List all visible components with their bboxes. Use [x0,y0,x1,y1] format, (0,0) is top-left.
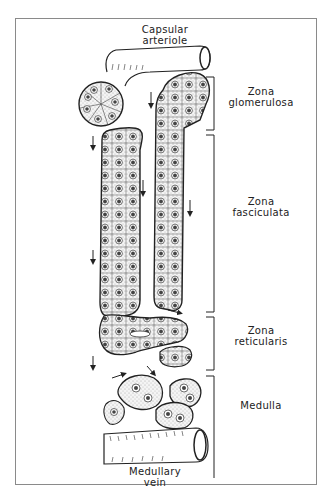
label-zona-fasciculata: Zona fasciculata [215,196,307,218]
label-line: Capsular [130,24,200,35]
label-line: arteriole [130,35,200,46]
reticularis-cords [100,315,192,367]
label-line: Medulla [215,400,307,411]
medullary-vein-vessel [104,428,208,464]
label-line: Zona [215,325,307,336]
label-medulla: Medulla [215,400,307,411]
label-line: reticularis [215,336,307,347]
zone-brackets [206,77,214,478]
label-line: glomerulosa [215,97,307,108]
adrenal-diagram [0,0,331,498]
label-line: Zona [215,196,307,207]
medulla-cell-clusters [104,375,201,429]
left-cell-cord [100,128,142,316]
right-cell-cord [154,73,209,311]
label-capsular-arteriole: Capsular arteriole [130,24,200,46]
label-line: vein [115,477,195,488]
label-line: Zona [215,86,307,97]
label-zona-reticularis: Zona reticularis [215,325,307,347]
glomerulosa-cell-cluster [79,82,123,126]
label-medullary-vein: Medullary vein [115,466,195,488]
label-line: Medullary [115,466,195,477]
label-zona-glomerulosa: Zona glomerulosa [215,86,307,108]
label-line: fasciculata [215,207,307,218]
